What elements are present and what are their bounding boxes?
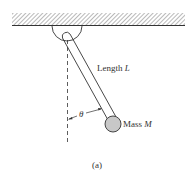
angle-label: θ	[79, 109, 84, 119]
ceiling-hatching	[12, 13, 185, 25]
pendulum-diagram: Length L θ Mass M (a)	[0, 0, 195, 182]
mass-label: Mass M	[123, 119, 152, 129]
length-label: Length L	[97, 63, 130, 73]
pendulum-rod	[62, 32, 115, 120]
pivot-mount	[52, 26, 82, 41]
ceiling	[12, 13, 185, 26]
figure-caption: (a)	[92, 160, 102, 170]
mass-bob	[105, 116, 121, 132]
angle-indicator	[68, 108, 102, 120]
